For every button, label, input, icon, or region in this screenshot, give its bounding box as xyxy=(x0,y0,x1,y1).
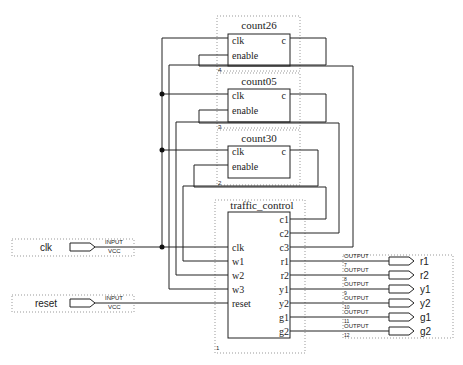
input-pin-icon xyxy=(70,243,95,251)
port-label: reset xyxy=(232,298,251,309)
block-title: count30 xyxy=(241,132,277,144)
pin-name: g1 xyxy=(420,312,432,323)
block-count05[interactable]: count05 clk enable c 3 xyxy=(217,73,300,130)
port-label: c xyxy=(282,146,287,157)
pin-type: OUTPUT xyxy=(344,309,369,315)
port-label: clk xyxy=(232,35,244,46)
port-label: c xyxy=(282,90,287,101)
pin-name: y1 xyxy=(420,284,431,295)
port-label: c1 xyxy=(280,214,289,225)
pin-type: OUTPUT xyxy=(344,281,369,287)
port-label: w3 xyxy=(232,284,244,295)
junction-dot xyxy=(160,148,165,153)
output-pin-icon xyxy=(389,271,414,279)
pin-type: OUTPUT xyxy=(344,295,369,301)
pin-default: VCC xyxy=(108,304,121,310)
pin-type: INPUT xyxy=(105,239,123,245)
port-label: enable xyxy=(232,50,259,61)
output-pin-icon xyxy=(389,257,414,265)
pin-type: OUTPUT xyxy=(344,253,369,259)
port-label: w1 xyxy=(232,256,244,267)
input-pin-icon xyxy=(70,299,95,307)
port-label: r2 xyxy=(281,270,289,281)
schematic-canvas: count26 clk enable c 4 count05 clk enabl… xyxy=(0,0,463,365)
port-label: y2 xyxy=(279,298,289,309)
port-label: clk xyxy=(232,242,244,253)
port-label: r1 xyxy=(281,256,289,267)
junction-dot xyxy=(160,245,165,250)
port-label: w2 xyxy=(232,270,244,281)
pin-type: INPUT xyxy=(105,295,123,301)
port-label: clk xyxy=(232,146,244,157)
wire-enable-count05-stub xyxy=(199,110,228,123)
pin-name: reset xyxy=(35,298,57,309)
port-label: g2 xyxy=(279,326,289,337)
block-count30[interactable]: count30 clk enable c 2 xyxy=(217,130,300,186)
block-title: traffic_control xyxy=(230,199,293,211)
wire-enable-count30-stub xyxy=(194,165,228,187)
input-pin-clk[interactable]: clk INPUT VCC xyxy=(12,239,134,256)
junction-dot xyxy=(160,92,165,97)
port-label: clk xyxy=(232,90,244,101)
pin-type: OUTPUT xyxy=(344,323,369,329)
pin-default: VCC xyxy=(108,248,121,254)
output-pin-icon xyxy=(389,313,414,321)
port-label: g1 xyxy=(279,312,289,323)
pin-name: clk xyxy=(40,242,53,253)
wire-enable-count26-stub xyxy=(199,55,228,66)
block-title: count26 xyxy=(241,19,277,31)
pin-name: g2 xyxy=(420,326,432,337)
block-traffic-control[interactable]: traffic_control clk w1 w2 w3 reset c1 c2… xyxy=(215,199,305,353)
port-label: enable xyxy=(232,105,259,116)
pin-name: r2 xyxy=(420,270,429,281)
pin-name: r1 xyxy=(420,256,429,267)
pin-type: OUTPUT xyxy=(344,267,369,273)
block-title: count05 xyxy=(241,75,277,87)
input-pin-reset[interactable]: reset INPUT VCC xyxy=(12,295,134,312)
output-pin-icon xyxy=(389,285,414,293)
port-label: c2 xyxy=(280,228,289,239)
port-label: enable xyxy=(232,161,259,172)
instance-number: 1 xyxy=(216,345,220,351)
pin-number: 12 xyxy=(344,332,350,338)
pin-name: y2 xyxy=(420,298,431,309)
port-label: y1 xyxy=(279,284,289,295)
output-pin-icon xyxy=(389,299,414,307)
instance-number: 3 xyxy=(218,124,222,130)
block-count26[interactable]: count26 clk enable c 4 xyxy=(217,16,300,73)
instance-number: 4 xyxy=(218,67,222,73)
output-pin-icon xyxy=(389,327,414,335)
port-label: c xyxy=(282,35,287,46)
port-label: c3 xyxy=(280,242,289,253)
